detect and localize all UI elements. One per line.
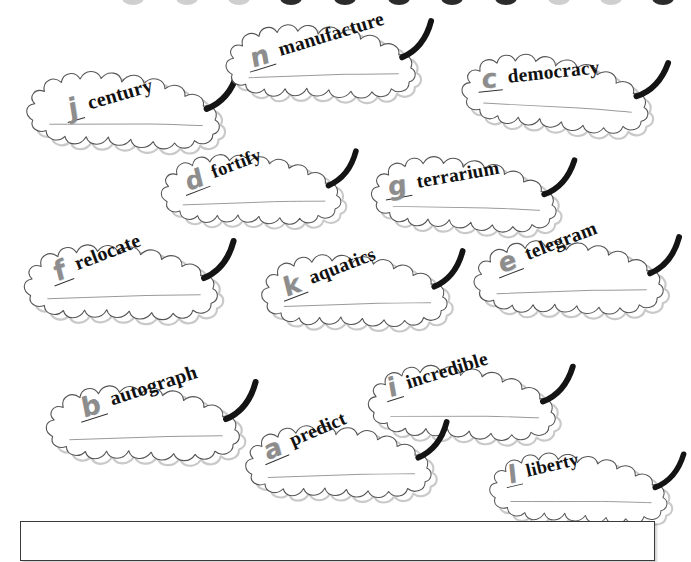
- leaf-stem: [539, 367, 576, 402]
- cut-leaf-stem-0: [176, 0, 198, 5]
- leaf-shape: [10, 202, 281, 365]
- leaf-outline: [41, 366, 242, 483]
- leaf-stem: [652, 454, 688, 487]
- leaf-stem: [634, 63, 670, 96]
- leaf-stem: [541, 160, 578, 194]
- leaf-outline: [241, 407, 434, 519]
- cut-leaf-stem-10: [122, 0, 144, 5]
- answer-box[interactable]: [20, 521, 655, 561]
- leaf-outline: [257, 236, 450, 348]
- cut-leaf-stem-8: [600, 0, 622, 5]
- leaf-outline: [19, 225, 220, 342]
- cut-leaf-stem-7: [548, 0, 570, 5]
- leaf-outline: [469, 222, 666, 336]
- cut-leaf-stem-6: [495, 0, 517, 5]
- cut-leaf-stem-2: [280, 0, 302, 5]
- leaf-outline: [221, 6, 418, 120]
- cut-leaf-stem-1: [228, 0, 250, 5]
- cut-leaf-stem-9: [652, 0, 674, 5]
- leaf-relocate[interactable]: frelocate: [10, 202, 281, 365]
